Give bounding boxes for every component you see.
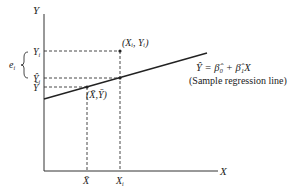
observed-point-label: (Xᵢ, Yᵢ) [122,37,149,49]
xi-label: Xi [115,175,124,187]
residual-label: ei [9,59,15,71]
regression-line [44,53,207,99]
fitted-point [118,76,121,79]
regression-caption: (Sample regression line) [189,75,287,87]
observed-point [118,49,121,52]
yi-label: Yi [33,46,41,58]
mean-point-label: (X̄,Ȳ) [86,89,108,101]
regression-diagram: Y X Yi Ŷi Ȳ ei X̄ Xi (Xᵢ, Yᵢ) (X̄,Ȳ) Ŷ =… [0,0,301,194]
regression-equation: Ŷ = β̂₀ + β̂₁X [196,62,251,73]
residual-brace [21,52,28,78]
xbar-label: X̄ [82,175,90,186]
x-axis-label: X [219,165,228,177]
y-axis-label: Y [33,4,41,16]
